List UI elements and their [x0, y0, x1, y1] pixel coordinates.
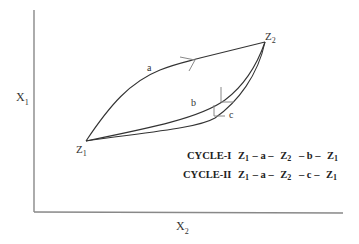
- point-z1-label: Z1: [76, 143, 87, 158]
- path-b: [86, 42, 265, 141]
- cycle-2: CYCLE-II Z1 – a – Z2 – c – Z1: [183, 169, 337, 182]
- path-a-label: a: [147, 62, 152, 73]
- cycle-1: CYCLE-I Z1 – a – Z2 – b – Z1: [187, 150, 338, 163]
- path-b-label: b: [191, 97, 196, 108]
- x-axis-label: X2: [176, 219, 189, 236]
- path-c: [86, 42, 265, 141]
- thermodynamic-cycle-diagram: X1 X2 a b c Z1 Z2 CYCLE-I Z1 – a – Z2: [0, 0, 359, 244]
- arrow-a-icon: [180, 57, 195, 71]
- cycle-legend: CYCLE-I Z1 – a – Z2 – b – Z1 CYCLE-II Z1…: [183, 150, 338, 182]
- path-a: [86, 42, 265, 141]
- path-c-label: c: [229, 109, 234, 120]
- point-z2-label: Z2: [265, 30, 276, 45]
- x-axis: [34, 212, 343, 213]
- y-axis-label: X1: [16, 90, 29, 107]
